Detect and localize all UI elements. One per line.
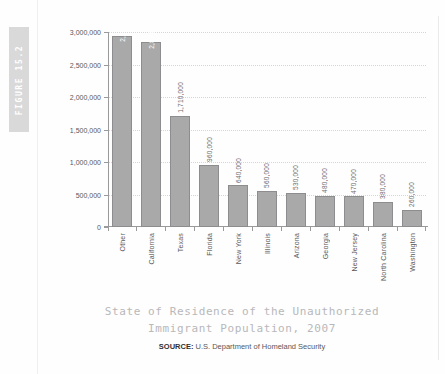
page-gutter-divider xyxy=(37,0,38,374)
bar-value-label: 480,000 xyxy=(321,168,328,193)
x-axis-category-label: Other xyxy=(119,233,126,252)
bar[interactable] xyxy=(286,193,306,227)
source-note: SOURCE: U.S. Department of Homeland Secu… xyxy=(56,342,428,351)
figure-number-tab: FIGURE 15.2 xyxy=(9,27,29,132)
x-axis-category-label-wrap: North Carolina xyxy=(379,233,386,285)
bar-value-label: 1,710,000 xyxy=(177,82,184,113)
bar[interactable] xyxy=(228,185,248,227)
x-axis-category-label: North Carolina xyxy=(379,233,386,281)
bar[interactable] xyxy=(402,210,422,227)
bar-group[interactable]: 960,000Florida xyxy=(195,32,224,227)
bar[interactable] xyxy=(315,196,335,227)
bar-value-label: 2,940,000 xyxy=(119,11,126,42)
bar[interactable] xyxy=(199,165,219,227)
bars-group: 2,940,000Other2,840,000California1,710,0… xyxy=(108,32,426,227)
page-edge-divider xyxy=(438,16,439,360)
x-axis-category-label-wrap: Florida xyxy=(206,233,213,260)
x-axis-category-label: Georgia xyxy=(321,233,328,259)
y-axis-tick-label: 2,500,000 xyxy=(70,61,101,68)
bar-value-label: 470,000 xyxy=(350,169,357,194)
x-axis-category-label-wrap: Arizona xyxy=(292,233,299,262)
bar-value-label: 2,840,000 xyxy=(148,18,155,49)
chart-title-line-2: Immigrant Population, 2007 xyxy=(56,320,428,337)
x-axis-category-label-wrap: Georgia xyxy=(321,233,328,263)
x-axis-category-label: New Jersey xyxy=(350,233,357,272)
bar-group[interactable]: 2,940,000Other xyxy=(108,32,137,227)
x-axis-category-label: Illinois xyxy=(263,233,270,254)
x-axis-category-label: Arizona xyxy=(292,233,299,258)
bar-chart: 0500,0001,000,0001,500,0002,000,0002,500… xyxy=(56,24,428,244)
figure-page: FIGURE 15.2 0500,0001,000,0001,500,0002,… xyxy=(0,0,445,374)
source-text: U.S. Department of Homeland Security xyxy=(196,342,326,351)
bar-group[interactable]: 260,000Washington xyxy=(397,32,426,227)
x-axis-category-label-wrap: New York xyxy=(235,233,242,268)
y-axis-tick-label: 500,000 xyxy=(76,191,101,198)
bar-group[interactable]: 480,000Georgia xyxy=(310,32,339,227)
x-axis-category-label: Florida xyxy=(206,233,213,256)
bar[interactable] xyxy=(141,42,161,227)
bar-value-label: 640,000 xyxy=(235,158,242,183)
x-axis-category-label-wrap: Other xyxy=(119,233,126,256)
bar-group[interactable]: 1,710,000Texas xyxy=(166,32,195,227)
bar[interactable] xyxy=(112,36,132,227)
x-axis-category-label-wrap: Texas xyxy=(177,233,184,256)
y-axis-tick-label: 0 xyxy=(97,224,101,231)
x-axis-category-label-wrap: Illinois xyxy=(263,233,270,258)
bar-group[interactable]: 560,000Illinois xyxy=(253,32,282,227)
x-axis-category-label: New York xyxy=(235,233,242,264)
chart-title-line-1: State of Residence of the Unauthorized xyxy=(56,303,428,320)
chart-title: State of Residence of the Unauthorized I… xyxy=(56,303,428,337)
x-axis-tick xyxy=(425,226,426,231)
bar[interactable] xyxy=(170,116,190,227)
x-axis-category-label-wrap: California xyxy=(148,233,155,269)
bar[interactable] xyxy=(257,191,277,227)
plot-area: 0500,0001,000,0001,500,0002,000,0002,500… xyxy=(108,32,426,227)
figure-number-label: FIGURE 15.2 xyxy=(15,44,24,115)
figure-caption: State of Residence of the Unauthorized I… xyxy=(56,303,428,351)
bar-value-label: 560,000 xyxy=(263,163,270,188)
x-axis-category-label: California xyxy=(148,233,155,265)
bar-group[interactable]: 530,000Arizona xyxy=(281,32,310,227)
x-axis-tick xyxy=(108,226,109,231)
x-axis-category-label: Texas xyxy=(177,233,184,252)
bar-group[interactable]: 2,840,000California xyxy=(137,32,166,227)
y-axis-tick-label: 1,500,000 xyxy=(70,126,101,133)
bar-group[interactable]: 640,000New York xyxy=(224,32,253,227)
bar-group[interactable]: 470,000New Jersey xyxy=(339,32,368,227)
bar-value-label: 530,000 xyxy=(292,165,299,190)
bar-value-label: 260,000 xyxy=(408,182,415,207)
y-axis-tick-label: 1,000,000 xyxy=(70,159,101,166)
bar-group[interactable]: 380,000North Carolina xyxy=(368,32,397,227)
bar-value-label: 380,000 xyxy=(379,174,386,199)
bar[interactable] xyxy=(344,196,364,227)
x-axis-category-label-wrap: New Jersey xyxy=(350,233,357,276)
bar[interactable] xyxy=(373,202,393,227)
x-axis-category-label: Washington xyxy=(408,233,415,272)
source-label: SOURCE: xyxy=(159,342,194,351)
y-axis-tick-label: 3,000,000 xyxy=(70,29,101,36)
x-axis-category-label-wrap: Washington xyxy=(408,233,415,276)
bar-value-label: 960,000 xyxy=(206,137,213,162)
y-axis-tick-label: 2,000,000 xyxy=(70,94,101,101)
